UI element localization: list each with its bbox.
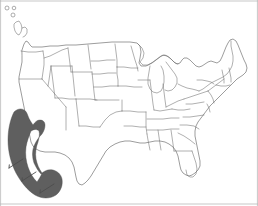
marker-circle-2 xyxy=(12,6,16,10)
us-national-outline xyxy=(19,39,247,185)
puget-sound-shape xyxy=(14,21,22,35)
map-figure xyxy=(0,0,258,206)
us-map-svg xyxy=(0,0,258,206)
pacific-northwest-detail xyxy=(14,21,27,37)
us-landmass-outline xyxy=(19,39,247,185)
olympic-peninsula-line xyxy=(22,27,27,37)
annotation-marker-circles xyxy=(5,6,16,17)
marker-circle-3 xyxy=(11,13,15,17)
marker-circle-1 xyxy=(5,6,9,10)
